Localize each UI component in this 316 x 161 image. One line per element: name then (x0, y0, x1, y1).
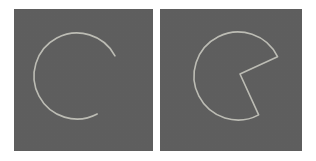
figure-root (0, 0, 316, 161)
pacman-sector-canvas (160, 9, 302, 151)
open-arc-panel (14, 9, 153, 151)
pacman-sector-panel (160, 9, 302, 151)
panel-background (160, 9, 302, 151)
open-arc-canvas (14, 9, 153, 151)
